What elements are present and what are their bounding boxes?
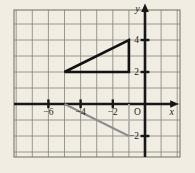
y-tick-label: 2	[134, 67, 139, 77]
x-axis-label: x	[168, 106, 174, 117]
x-tick-label: −4	[76, 107, 86, 117]
x-tick-label: −6	[43, 107, 53, 117]
x-tick-label: −2	[108, 107, 118, 117]
y-tick-label: −2	[129, 131, 139, 141]
origin-label: O	[134, 107, 141, 117]
y-axis-label: y	[134, 3, 140, 14]
figure-background	[0, 0, 195, 173]
y-tick-label: 4	[134, 35, 139, 45]
background	[0, 0, 195, 173]
coordinate-grid-figure: −6−4−242−2Oxy	[0, 0, 195, 173]
figure-canvas: −6−4−242−2Oxy	[0, 0, 195, 173]
